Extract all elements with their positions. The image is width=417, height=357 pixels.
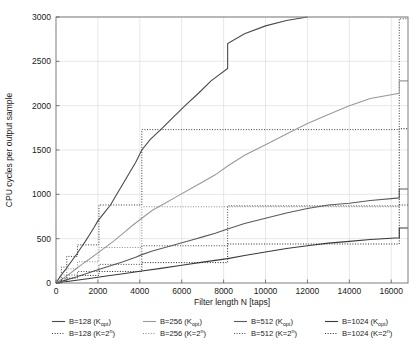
legend-label-1: B=128 (K=2n) [69,328,116,338]
figure-caption [4,348,414,357]
x-tick-label: 0 [54,286,59,296]
x-tick-label: 16000 [379,286,403,296]
y-tick-label: 1000 [32,189,51,199]
y-tick-label: 3000 [32,12,51,22]
x-tick-label: 8000 [214,286,233,296]
x-tick-label: 6000 [172,286,191,296]
y-axis-title: CPU cycles per output sample [4,93,14,208]
cpu-cycles-line-chart: 0200040006000800010000120001400016000050… [0,0,417,345]
legend-label-2: B=256 (Kopt) [160,317,202,327]
y-tick-label: 2000 [32,101,51,111]
legend-label-6: B=1024 (Kopt) [342,317,389,327]
chart-figure: 0200040006000800010000120001400016000050… [0,0,417,357]
legend-label-5: B=512 (K=2n) [251,328,298,338]
legend-label-4: B=512 (Kopt) [251,317,293,327]
x-tick-label: 14000 [338,286,362,296]
legend-label-3: B=256 (K=2n) [160,328,207,338]
x-tick-label: 2000 [88,286,107,296]
x-tick-label: 12000 [296,286,320,296]
x-tick-label: 10000 [254,286,278,296]
y-tick-label: 1500 [32,145,51,155]
legend-label-7: B=1024 (K=2n) [342,328,393,338]
y-tick-label: 0 [46,278,51,288]
legend-label-0: B=128 (Kopt) [69,317,111,327]
y-tick-label: 2500 [32,56,51,66]
x-tick-label: 4000 [130,286,149,296]
legend: B=128 (Kopt)B=256 (Kopt)B=512 (Kopt)B=10… [52,317,393,338]
y-tick-label: 500 [37,234,51,244]
x-axis-title: Filter length N [taps] [194,297,270,307]
